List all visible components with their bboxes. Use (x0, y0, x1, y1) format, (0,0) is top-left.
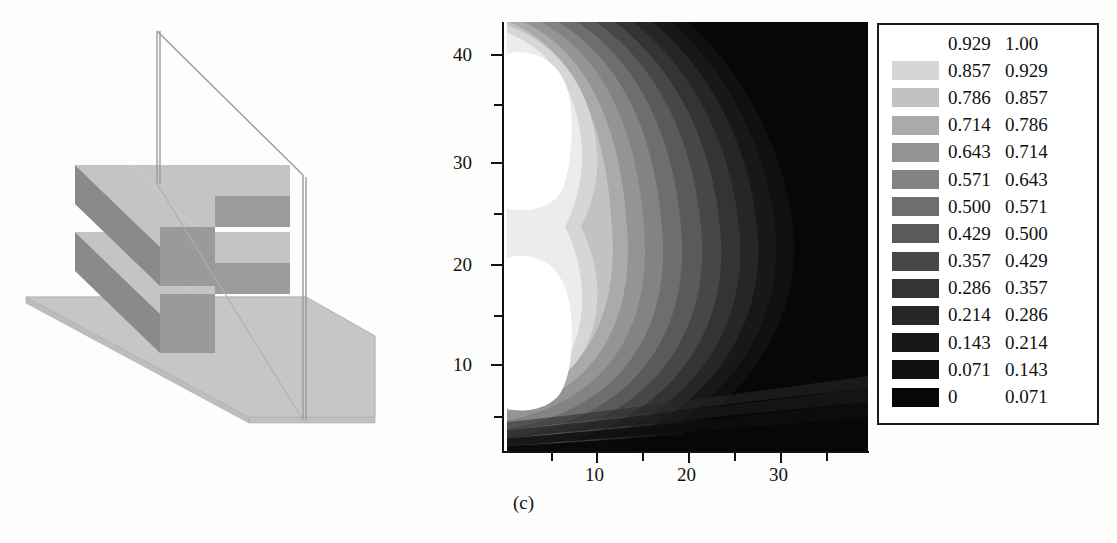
x-tick-15 (642, 453, 644, 461)
x-tick-30 (780, 453, 782, 463)
legend-range-values: 0.9291.00 (948, 33, 1065, 55)
x-axis-label-30: 30 (769, 464, 788, 486)
legend-range-low: 0.857 (948, 60, 1005, 82)
legend-range-values: 0.5710.643 (948, 169, 1065, 191)
x-axis-label-20: 20 (677, 464, 696, 486)
y-tick-35 (494, 104, 502, 106)
legend-range-high: 0.214 (1005, 332, 1065, 354)
legend-color-swatch (892, 224, 939, 243)
y-tick-40 (491, 54, 502, 56)
legend-color-swatch (892, 61, 939, 80)
legend-range-low: 0.571 (948, 169, 1005, 191)
legend-range-values: 0.6430.714 (948, 141, 1065, 163)
legend-range-high: 0.286 (1005, 304, 1065, 326)
legend-row: 0.1430.214 (879, 329, 1097, 356)
legend-range-high: 0.357 (1005, 277, 1065, 299)
legend-row: 0.5710.643 (879, 166, 1097, 193)
legend-row: 0.5000.571 (879, 193, 1097, 220)
legend-range-high: 1.00 (1005, 33, 1065, 55)
legend-row-list: 0.9291.000.8570.9290.7860.8570.7140.7860… (879, 30, 1097, 411)
legend-range-high: 0.714 (1005, 141, 1065, 163)
legend-range-values: 0.4290.500 (948, 223, 1065, 245)
legend-range-low: 0 (948, 386, 1005, 408)
legend-row: 0.4290.500 (879, 220, 1097, 247)
legend-row: 0.7860.857 (879, 84, 1097, 111)
y-tick-15 (494, 315, 502, 317)
x-tick-25 (734, 453, 736, 461)
legend-range-values: 0.1430.214 (948, 332, 1065, 354)
legend-range-low: 0.143 (948, 332, 1005, 354)
legend-range-high: 0.571 (1005, 196, 1065, 218)
legend-color-swatch (892, 34, 939, 53)
legend-row: 0.2860.357 (879, 275, 1097, 302)
legend-range-low: 0.214 (948, 304, 1005, 326)
y-axis-label-30: 30 (453, 152, 472, 174)
y-axis-label-40: 40 (453, 44, 472, 66)
figure-panel-c: 40 30 20 10 10 20 30 (c) 0.9291.000.8570… (0, 0, 1117, 543)
y-tick-30 (491, 162, 502, 164)
legend-color-swatch (892, 360, 939, 379)
legend-range-values: 0.0710.143 (948, 359, 1065, 381)
legend-range-values: 0.5000.571 (948, 196, 1065, 218)
legend-range-low: 0.786 (948, 87, 1005, 109)
y-axis-label-10: 10 (453, 354, 472, 376)
legend-range-high: 0.929 (1005, 60, 1065, 82)
legend-row: 0.6430.714 (879, 139, 1097, 166)
legend-row: 0.3570.429 (879, 248, 1097, 275)
legend-row: 0.7140.786 (879, 112, 1097, 139)
legend-range-low: 0.714 (948, 114, 1005, 136)
legend-row: 0.2140.286 (879, 302, 1097, 329)
legend-range-values: 0.2140.286 (948, 304, 1065, 326)
legend-color-swatch (892, 197, 939, 216)
legend-color-swatch (892, 170, 939, 189)
x-tick-5 (551, 453, 553, 461)
legend-range-values: 00.071 (948, 386, 1065, 408)
legend-range-low: 0.357 (948, 250, 1005, 272)
legend-range-high: 0.643 (1005, 169, 1065, 191)
legend-range-high: 0.071 (1005, 386, 1065, 408)
legend-range-low: 0.929 (948, 33, 1005, 55)
y-tick-10 (491, 364, 502, 366)
x-axis-label-10: 10 (585, 464, 604, 486)
legend-range-low: 0.286 (948, 277, 1005, 299)
legend-color-swatch (892, 143, 939, 162)
legend-range-high: 0.143 (1005, 359, 1065, 381)
legend-range-high: 0.857 (1005, 87, 1065, 109)
contour-level-legend: 0.9291.000.8570.9290.7860.8570.7140.7860… (877, 23, 1099, 425)
y-axis-line (502, 22, 504, 453)
legend-range-high: 0.500 (1005, 223, 1065, 245)
x-axis-line (502, 451, 869, 453)
y-tick-25 (494, 213, 502, 215)
legend-color-swatch (892, 252, 939, 271)
contour-plot-canvas (507, 22, 868, 452)
legend-range-values: 0.7860.857 (948, 87, 1065, 109)
legend-range-values: 0.2860.357 (948, 277, 1065, 299)
legend-range-low: 0.500 (948, 196, 1005, 218)
legend-color-swatch (892, 388, 939, 407)
x-tick-10 (596, 453, 598, 463)
isometric-waveguide-diagram (0, 0, 430, 460)
legend-color-swatch (892, 88, 939, 107)
legend-row: 0.0710.143 (879, 356, 1097, 383)
legend-color-swatch (892, 306, 939, 325)
legend-color-swatch (892, 333, 939, 352)
x-tick-35 (826, 453, 828, 461)
legend-range-values: 0.8570.929 (948, 60, 1065, 82)
contour-plot (507, 22, 868, 452)
legend-row: 0.8570.929 (879, 57, 1097, 84)
legend-range-values: 0.3570.429 (948, 250, 1065, 272)
legend-range-high: 0.429 (1005, 250, 1065, 272)
legend-range-low: 0.643 (948, 141, 1005, 163)
legend-color-swatch (892, 279, 939, 298)
y-tick-20 (491, 264, 502, 266)
x-tick-20 (688, 453, 690, 463)
legend-color-swatch (892, 116, 939, 135)
legend-row: 0.9291.00 (879, 30, 1097, 57)
y-tick-5 (494, 416, 502, 418)
legend-row: 00.071 (879, 383, 1097, 410)
legend-range-low: 0.071 (948, 359, 1005, 381)
panel-caption: (c) (513, 492, 534, 514)
legend-range-values: 0.7140.786 (948, 114, 1065, 136)
y-axis-label-20: 20 (453, 254, 472, 276)
legend-range-high: 0.786 (1005, 114, 1065, 136)
